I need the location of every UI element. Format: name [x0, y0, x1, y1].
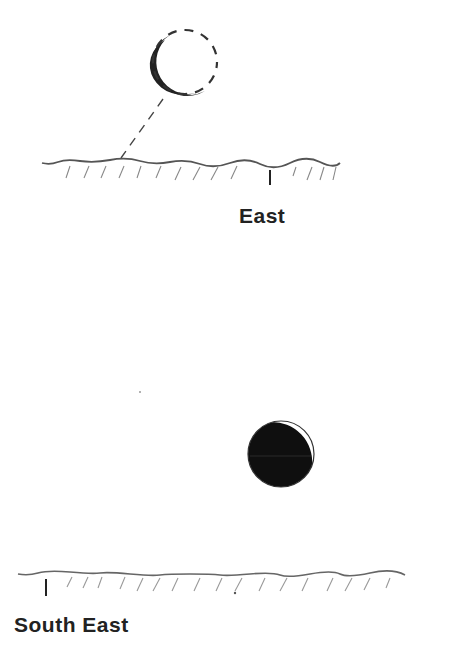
- panel-east: East: [0, 0, 451, 260]
- horizon-line: [42, 159, 340, 168]
- horizon-line: [18, 571, 405, 576]
- moon-east-icon: [150, 30, 217, 96]
- moon-south-east-icon: [248, 420, 315, 487]
- panel-south-east: South East: [0, 260, 451, 667]
- label-south-east: South East: [14, 613, 129, 637]
- east-sketch: [0, 0, 451, 260]
- label-east: East: [239, 204, 285, 228]
- ground-hatching: [66, 166, 336, 180]
- sightline-dashed: [121, 99, 163, 158]
- south-east-sketch: [0, 260, 451, 667]
- stray-dot: [234, 592, 236, 594]
- ground-hatching: [67, 577, 390, 591]
- stray-dot: [139, 391, 141, 393]
